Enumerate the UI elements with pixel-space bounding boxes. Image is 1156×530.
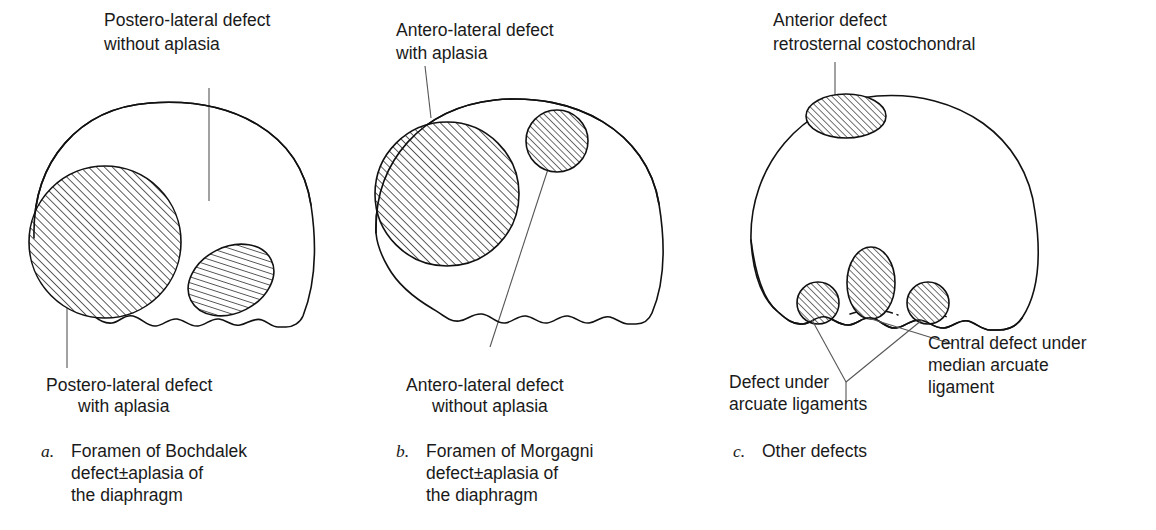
label-c-anterior-line1: Anterior defect [773,10,887,30]
label-b-with-aplasia-line2: with aplasia [395,43,488,63]
label-c-arcuate-line2: arcuate ligaments [729,394,867,414]
label-c-anterior-line2: retrosternal costochondral [773,34,975,54]
label-c-central-line3: ligament [928,377,994,397]
caption-a-letter: a. [41,441,54,461]
label-a-with-aplasia-line1: Postero-lateral defect [46,375,212,395]
lesion-c-anterior-retrosternal [806,94,886,138]
label-b-with-aplasia-line1: Antero-lateral defect [396,20,554,40]
caption-b-line2: defect±aplasia of [426,463,558,483]
lesion-c-right-arcuate [907,282,949,324]
caption-a-line2: defect±aplasia of [71,463,203,483]
caption-c-letter: c. [733,441,745,461]
lesion-b-large-antero-lateral [375,122,519,266]
label-b-without-aplasia-line1: Antero-lateral defect [406,375,564,395]
caption-b-line1: Foramen of Morgagni [426,441,593,461]
lesion-a-large-postero-lateral [29,166,181,318]
caption-b-line3: the diaphragm [426,485,538,505]
label-c-central-line2: median arcuate [928,355,1049,375]
diaphragmatic-defects-figure: Postero-lateral defect without aplasia P… [0,0,1156,530]
label-a-without-aplasia-line2: without aplasia [103,34,220,54]
label-c-arcuate-line1: Defect under [729,372,829,392]
caption-a-line1: Foramen of Bochdalek [71,441,247,461]
lesion-c-central-median-arcuate [847,247,895,319]
label-a-without-aplasia-line1: Postero-lateral defect [104,10,270,30]
label-b-without-aplasia-line2: without aplasia [431,396,548,416]
caption-b-letter: b. [396,441,409,461]
caption-c-line1: Other defects [762,441,867,461]
label-a-with-aplasia-line2: with aplasia [77,396,170,416]
lesion-b-small-antero-lateral [526,110,588,172]
label-c-central-line1: Central defect under [928,333,1087,353]
caption-a-line3: the diaphragm [71,485,183,505]
